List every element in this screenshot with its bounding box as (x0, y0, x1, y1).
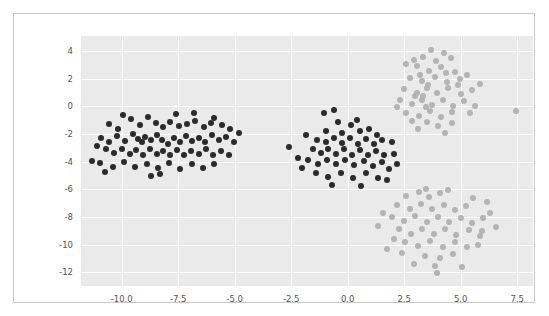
scatter-point (183, 133, 189, 139)
scatter-point (420, 54, 426, 60)
scatter-point (339, 140, 345, 146)
scatter-point (394, 202, 400, 208)
scatter-point (165, 141, 171, 147)
scatter-point (106, 121, 112, 127)
scatter-point (189, 161, 195, 167)
scatter-point (160, 148, 166, 154)
scatter-point (380, 210, 386, 216)
scatter-point (440, 97, 446, 103)
scatter-point (370, 163, 376, 169)
scatter-plot-area (81, 36, 533, 286)
scatter-point (358, 183, 364, 189)
scatter-point (412, 213, 418, 219)
scatter-point (412, 93, 418, 99)
scatter-point (407, 75, 413, 81)
scatter-point (429, 206, 435, 212)
scatter-point (381, 152, 387, 158)
scatter-point (416, 189, 422, 195)
scatter-point (145, 114, 151, 120)
scatter-point (449, 109, 455, 115)
scatter-point (415, 126, 421, 132)
scatter-point (480, 215, 486, 221)
scatter-point (452, 69, 458, 75)
y-tick-label: -12 (39, 267, 73, 277)
y-tick-label: -2 (39, 129, 73, 139)
x-tick-label: -5.0 (226, 294, 243, 304)
scatter-point (444, 79, 450, 85)
scatter-point (391, 151, 397, 157)
scatter-point (442, 130, 448, 136)
scatter-point (452, 207, 458, 213)
x-tick-label: -10.0 (111, 294, 133, 304)
scatter-point (431, 231, 437, 237)
scatter-point (422, 253, 428, 259)
y-tick-label: -4 (39, 157, 73, 167)
y-tick-label: 2 (39, 74, 73, 84)
scatter-point (173, 111, 179, 117)
scatter-point (373, 148, 379, 154)
x-tick-label: 2.5 (397, 294, 411, 304)
scatter-point (157, 171, 163, 177)
scatter-point (231, 139, 237, 145)
scatter-point (209, 132, 215, 138)
scatter-point (394, 104, 400, 110)
scatter-point (445, 187, 451, 193)
x-tick-label: 5.0 (454, 294, 468, 304)
scatter-point (411, 261, 417, 267)
scatter-point (475, 242, 481, 248)
scatter-point (438, 114, 444, 120)
scatter-point (441, 202, 447, 208)
scatter-point (313, 170, 319, 176)
scatter-point (432, 263, 438, 269)
scatter-point (399, 250, 405, 256)
scatter-point (347, 135, 353, 141)
scatter-point (440, 244, 446, 250)
scatter-point (394, 161, 400, 167)
scatter-point (203, 146, 209, 152)
scatter-point (98, 135, 104, 141)
scatter-point (160, 124, 166, 130)
scatter-point (446, 219, 452, 225)
scatter-point (119, 146, 125, 152)
scatter-point (110, 164, 116, 170)
scatter-point (216, 137, 222, 143)
scatter-point (438, 64, 444, 70)
scatter-point (148, 173, 154, 179)
scatter-point (433, 58, 439, 64)
x-tick-label: -7.5 (170, 294, 187, 304)
scatter-point (450, 103, 456, 109)
scatter-point (339, 130, 345, 136)
scatter-point (466, 227, 472, 233)
scatter-point (361, 158, 367, 164)
scatter-point (411, 57, 417, 63)
scatter-point (331, 135, 337, 141)
scatter-point (379, 137, 385, 143)
scatter-point (424, 119, 430, 125)
scatter-point (403, 193, 409, 199)
scatter-point (432, 74, 438, 80)
scatter-point (463, 203, 469, 209)
scatter-point (487, 210, 493, 216)
scatter-point (459, 264, 465, 270)
scatter-point (122, 138, 128, 144)
scatter-point (106, 139, 112, 145)
scatter-point (453, 232, 459, 238)
scatter-point (144, 161, 150, 167)
scatter-point (210, 152, 216, 158)
scatter-point (427, 238, 433, 244)
scatter-point (435, 214, 441, 220)
scatter-point (469, 220, 475, 226)
scatter-point (335, 119, 341, 125)
scatter-point (419, 226, 425, 232)
scatter-point (128, 116, 134, 122)
x-tick-label: 0.0 (341, 294, 355, 304)
x-tick-label: -2.5 (283, 294, 300, 304)
scatter-point (114, 133, 120, 139)
scatter-point (423, 104, 429, 110)
scatter-point (184, 121, 190, 127)
scatter-point (171, 135, 177, 141)
y-tick-label: -10 (39, 240, 73, 250)
scatter-point (139, 139, 145, 145)
scatter-point (354, 117, 360, 123)
scatter-point (333, 151, 339, 157)
